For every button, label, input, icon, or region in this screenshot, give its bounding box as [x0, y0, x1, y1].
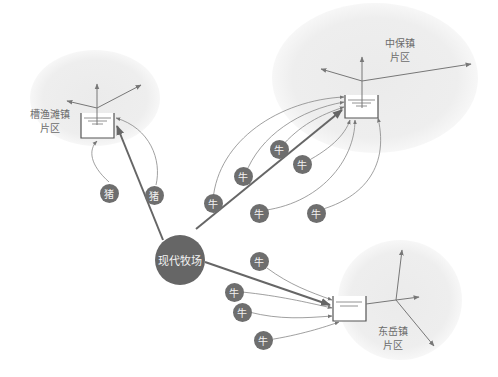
cattle-node: 牛: [254, 331, 273, 350]
region-zhongbao: [272, 3, 478, 153]
cattle-node: 牛: [204, 194, 223, 213]
diagram-lines: [0, 0, 498, 377]
cattle-node: 牛: [225, 283, 244, 302]
region-label-dongyue: 东岳镇 片区: [378, 325, 408, 353]
cattle-node: 牛: [250, 204, 269, 223]
cattle-node: 牛: [234, 167, 253, 186]
region-label-zhongbao: 中保镇 片区: [385, 37, 415, 65]
cattle-node: 牛: [270, 140, 289, 159]
cattle-node: 牛: [250, 252, 269, 271]
cattle-node: 牛: [293, 155, 312, 174]
diagram-canvas: 槽渔滩镇 片区 中保镇 片区 东岳镇 片区 现代牧场 猪 猪 牛 牛 牛 牛 牛…: [0, 0, 498, 377]
region-label-caoyutan: 槽渔滩镇 片区: [30, 108, 70, 136]
hub-node-modern-ranch: 现代牧场: [155, 235, 205, 285]
cattle-node: 牛: [307, 204, 326, 223]
pig-node: 猪: [145, 186, 164, 205]
pig-node: 猪: [100, 184, 119, 203]
cattle-node: 牛: [233, 303, 252, 322]
